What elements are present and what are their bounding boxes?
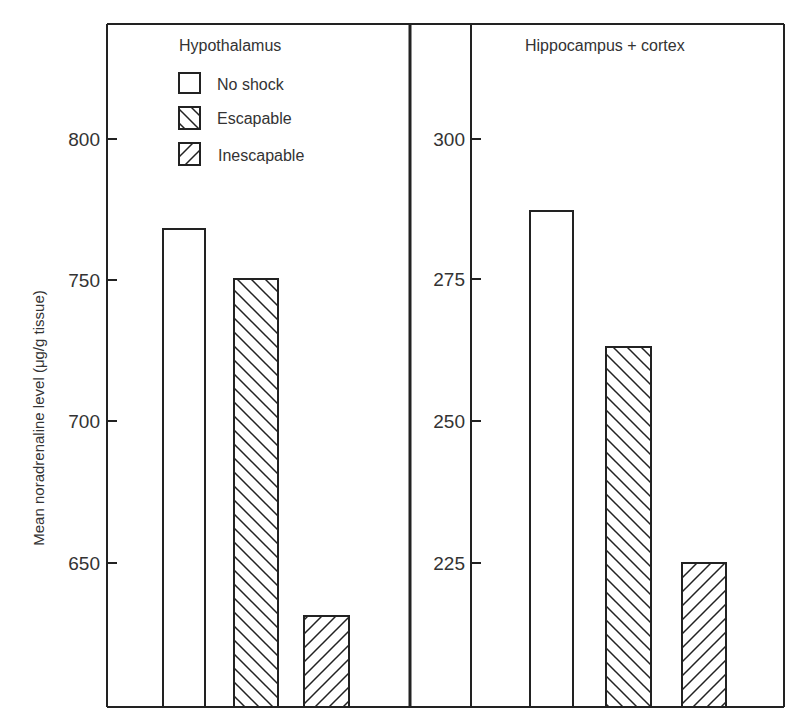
legend-label: Escapable [217,110,292,127]
legend-label: Inescapable [218,147,304,164]
left-y-ticks: 800 750 700 650 [68,129,117,574]
hippocampus-bars [530,211,726,707]
right-y-ticks: 300 275 250 225 [433,129,481,574]
tick-label: 300 [433,129,465,150]
bar-inescapable [304,616,349,707]
bar-escapable [234,279,278,707]
panel-title-hippocampus: Hippocampus + cortex [525,37,685,54]
legend-swatch-no-shock [179,73,200,93]
bar-no-shock [163,229,205,707]
legend: No shock Escapable Inescapable [179,73,304,165]
hypothalamus-bars [163,229,349,707]
legend-swatch-inescapable [179,143,200,165]
panel-title-hypothalamus: Hypothalamus [179,37,281,54]
tick-label: 700 [68,411,100,432]
tick-label: 225 [433,553,465,574]
y-axis-label: Mean noradrenaline level (μg/g tissue) [30,290,47,545]
chart-canvas: 800 750 700 650 300 275 250 225 Mean nor… [0,0,805,725]
legend-label: No shock [217,76,285,93]
tick-label: 650 [68,553,100,574]
bar-no-shock [530,211,573,707]
tick-label: 750 [68,270,100,291]
tick-label: 250 [433,411,465,432]
bar-inescapable [682,563,726,707]
legend-swatch-escapable [179,107,200,129]
tick-label: 800 [68,129,100,150]
tick-label: 275 [433,269,465,290]
bar-escapable [606,347,651,707]
